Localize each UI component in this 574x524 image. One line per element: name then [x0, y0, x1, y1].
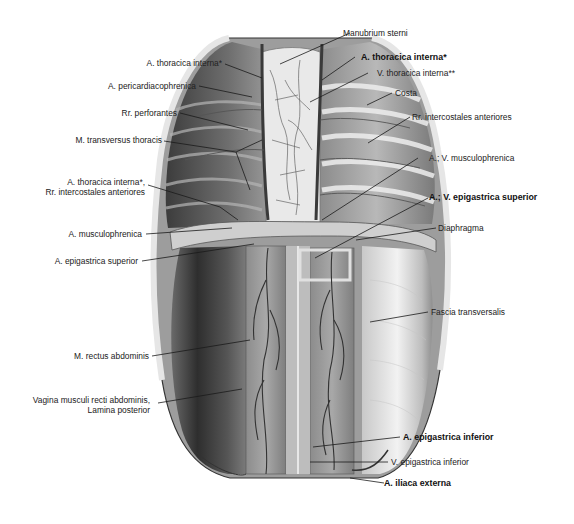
label-vagina-musculi-recti: Vagina musculi recti abdominis, Lamina p…: [33, 395, 150, 415]
label-a-v-epigastrica-superior: A.; V. epigastrica superior: [429, 192, 537, 202]
label-a-thoracica-interna-rr-line1: A. thoracica interna*,: [45, 177, 145, 187]
label-rr-perforantes: Rr. perforantes: [122, 108, 177, 118]
label-a-thoracica-interna-left: A. thoracica interna*: [147, 58, 222, 68]
label-a-pericardiacophrenica: A. pericardiacophrenica: [108, 81, 196, 91]
label-fascia-transversalis: Fascia transversalis: [431, 307, 505, 317]
label-rr-intercostales-anteriores-right: Rr. intercostales anteriores: [412, 112, 512, 122]
label-m-transversus-thoracis: M. transversus thoracis: [75, 135, 162, 145]
label-a-epigastrica-inferior: A. epigastrica inferior: [403, 432, 493, 442]
label-vagina-line2: Lamina posterior: [33, 405, 150, 415]
label-a-thoracica-interna-rr-line2: Rr. intercostales anteriores: [45, 187, 145, 197]
label-costa: Costa: [395, 88, 417, 98]
label-manubrium-sterni: Manubrium sterni: [343, 28, 408, 38]
label-a-v-musculophrenica: A.; V. musculophrenica: [429, 153, 514, 163]
label-a-epigastrica-superior: A. epigastrica superior: [55, 256, 138, 266]
label-a-thoracica-interna-rr: A. thoracica interna*, Rr. intercostales…: [45, 177, 145, 197]
label-m-rectus-abdominis: M. rectus abdominis: [74, 351, 149, 361]
label-a-musculophrenica: A. musculophrenica: [68, 229, 142, 239]
label-a-thoracica-interna-right: A. thoracica interna*: [361, 52, 447, 62]
label-a-iliaca-externa: A. iliaca externa: [384, 478, 451, 488]
label-v-thoracica-interna: V. thoracica interna**: [377, 68, 455, 78]
label-vagina-line1: Vagina musculi recti abdominis,: [33, 395, 150, 405]
label-v-epigastrica-inferior: V. epigastrica inferior: [391, 457, 469, 467]
label-diaphragma: Diaphragma: [438, 223, 484, 233]
sternum: [262, 48, 320, 223]
